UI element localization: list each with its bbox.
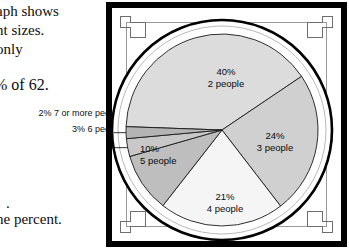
body-text-line-3: only [0, 42, 23, 57]
chart-frame: 40% 2 people 24% 3 people 21% 4 people 1… [106, 2, 347, 247]
slice-label-3-people: 24% 3 people [240, 130, 310, 153]
pie-chart: 40% 2 people 24% 3 people 21% 4 people 1… [112, 8, 349, 249]
body-text-line-1: aph shows [0, 4, 59, 19]
slice-percent-24: 24% [240, 130, 310, 142]
slice-label-5-people: 10% 5 people [140, 143, 202, 166]
body-text-line-6: he percent. [0, 212, 62, 227]
slice-percent-40: 40% [191, 66, 261, 78]
slice-label-2-people: 40% 2 people [191, 66, 261, 89]
slice-people-4: 4 people [190, 203, 260, 215]
slice-percent-10: 10% [140, 143, 202, 155]
body-text-line-4: % of 62. [0, 77, 49, 93]
callout-label-7-or-more-people: 2% 7 or more people [0, 109, 122, 118]
slice-percent-21: 21% [190, 191, 260, 203]
slice-people-3: 3 people [240, 142, 310, 154]
body-text-line-2: nt sizes. [0, 23, 44, 38]
slice-people-5: 5 people [140, 155, 202, 167]
slice-people-2: 2 people [191, 78, 261, 90]
page-root: aph shows nt sizes. only % of 62. . he p… [0, 0, 349, 249]
callout-label-6-people: 3% 6 people [0, 125, 122, 134]
slice-label-4-people: 21% 4 people [190, 191, 260, 214]
body-text-line-5: . [6, 196, 10, 211]
